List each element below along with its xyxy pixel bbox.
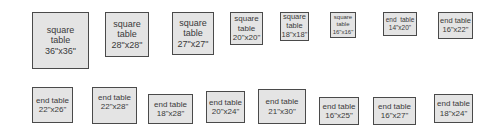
table-box-end-14x20: end table 14"x20" bbox=[383, 12, 417, 36]
table-box-square-28x28: square table 28"x28" bbox=[105, 12, 149, 57]
table-size-label: 36"x36" bbox=[45, 46, 76, 57]
table-type-label: end table bbox=[266, 97, 299, 106]
table-size-label: 27"x27" bbox=[178, 39, 209, 50]
table-type-label: end table bbox=[98, 93, 131, 102]
table-size-label: 18"x24" bbox=[440, 109, 467, 118]
table-size-label: 21"x30" bbox=[268, 107, 295, 116]
table-box-square-20x20: square table 20"x20" bbox=[230, 12, 263, 45]
table-size-label: 22"x28" bbox=[101, 102, 128, 111]
table-type-label: table bbox=[183, 28, 203, 39]
table-type-label: square bbox=[334, 14, 352, 21]
table-box-end-16x22: end table 16"x22" bbox=[438, 12, 473, 39]
table-type-label: square bbox=[234, 14, 258, 23]
table-type-label: end table bbox=[386, 16, 415, 24]
table-box-end-16x27: end table 16"x27" bbox=[373, 97, 416, 125]
table-size-label: 28"x28" bbox=[112, 40, 143, 51]
table-box-end-22x28: end table 22"x28" bbox=[92, 87, 137, 124]
table-size-label: 20"x20" bbox=[233, 33, 260, 42]
table-box-end-18x24: end table 18"x24" bbox=[434, 94, 473, 123]
table-size-label: 16"x22" bbox=[443, 26, 469, 35]
table-box-end-22x26: end table 22"x26" bbox=[32, 87, 73, 123]
table-size-label: 22"x26" bbox=[39, 105, 66, 114]
table-box-square-18x18: square table 18"x18" bbox=[280, 12, 309, 41]
table-type-label: table bbox=[117, 29, 137, 40]
table-type-label: end table bbox=[378, 102, 411, 111]
table-box-square-16x16: square table 16"x16" bbox=[330, 12, 356, 38]
table-box-end-20x24: end table 20"x24" bbox=[206, 91, 245, 123]
table-type-label: end table bbox=[36, 96, 69, 105]
table-type-label: square bbox=[113, 19, 141, 30]
table-box-end-18x28: end table 18"x28" bbox=[148, 94, 193, 124]
table-box-square-36x36: square table 36"x36" bbox=[32, 12, 89, 69]
table-type-label: table bbox=[336, 21, 349, 28]
table-type-label: square bbox=[47, 25, 75, 36]
table-size-label: 18"x28" bbox=[157, 109, 184, 118]
table-type-label: end table bbox=[437, 99, 470, 108]
table-box-end-16x25: end table 16"x25" bbox=[319, 97, 359, 125]
table-type-label: end table bbox=[209, 98, 242, 107]
table-type-label: square bbox=[179, 18, 207, 29]
table-type-label: end table bbox=[323, 102, 356, 111]
table-type-label: table bbox=[51, 35, 71, 46]
table-size-label: 16"x25" bbox=[325, 111, 352, 120]
table-box-square-27x27: square table 27"x27" bbox=[172, 12, 214, 55]
table-type-label: end table bbox=[154, 100, 187, 109]
table-size-label: 16"x16" bbox=[333, 29, 354, 36]
table-box-end-21x30: end table 21"x30" bbox=[258, 89, 306, 124]
table-size-label: 14"x20" bbox=[389, 24, 411, 32]
table-type-label: table bbox=[238, 24, 255, 33]
table-size-label: 18"x18" bbox=[282, 31, 308, 40]
table-size-label: 16"x27" bbox=[381, 111, 408, 120]
table-size-label: 20"x24" bbox=[212, 107, 239, 116]
